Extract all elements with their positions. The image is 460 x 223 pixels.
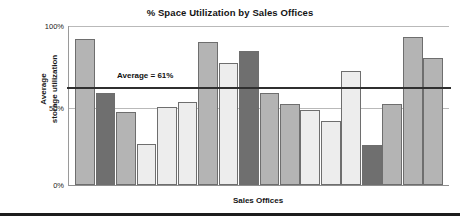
y-axis-label: Average storage utilization <box>38 29 60 149</box>
bar <box>157 107 177 185</box>
bar <box>219 63 239 185</box>
bar <box>362 145 382 185</box>
bar <box>300 110 320 185</box>
bar <box>137 144 157 185</box>
bar-series <box>69 26 449 186</box>
bar <box>75 39 95 185</box>
y-axis-label-line-2: storage utilization <box>49 29 60 149</box>
y-tick-label-50: 50% <box>34 104 64 113</box>
chart-figure: % Space Utilization by Sales Offices Ave… <box>0 0 460 223</box>
bar <box>198 42 218 185</box>
x-axis-label: Sales Offices <box>68 196 448 205</box>
bar <box>116 112 136 185</box>
y-tick-label-100: 100% <box>34 22 64 31</box>
bar <box>382 104 402 185</box>
bar <box>178 102 198 185</box>
bottom-rule <box>0 213 460 216</box>
bar <box>423 58 443 185</box>
average-annotation-label: Average = 61% <box>117 71 173 80</box>
bar <box>260 93 280 185</box>
bar <box>321 121 341 185</box>
plot-area: Average = 61% <box>68 26 448 186</box>
y-tick-label-0: 0% <box>34 181 64 190</box>
y-axis-label-line-1: Average <box>38 29 49 149</box>
bar <box>239 51 259 185</box>
y-axis: Average storage utilization 100% 50% 0% <box>30 0 64 223</box>
chart-title: % Space Utilization by Sales Offices <box>0 7 460 18</box>
average-reference-line <box>67 87 451 90</box>
bar <box>96 93 116 185</box>
bar <box>403 37 423 185</box>
bar <box>280 104 300 185</box>
